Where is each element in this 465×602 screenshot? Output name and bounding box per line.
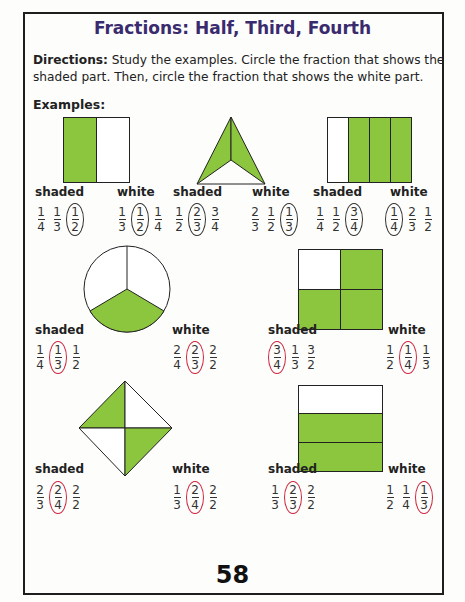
shaded-label: shaded: [173, 185, 222, 199]
denominator: 2: [267, 221, 275, 233]
denominator: 3: [271, 499, 279, 511]
denominator: 3: [36, 499, 44, 511]
numerator: 2: [36, 484, 44, 496]
numerator: 1: [37, 206, 45, 218]
fraction-choice[interactable]: 23: [248, 204, 262, 235]
denominator: 4: [211, 221, 219, 233]
fraction-choice[interactable]: 13: [49, 341, 67, 374]
shape-circle-thirds: [83, 245, 173, 335]
fraction-choice[interactable]: 12: [383, 482, 397, 513]
shape-rectangle-halves: [63, 117, 131, 183]
fraction-choice[interactable]: 23: [186, 341, 204, 374]
fraction-choice[interactable]: 23: [33, 482, 47, 513]
shaded-label: shaded: [35, 462, 84, 476]
denominator: 2: [424, 221, 432, 233]
fraction-choice[interactable]: 24: [186, 481, 204, 514]
fraction-choice[interactable]: 12: [69, 342, 83, 373]
fraction-choice[interactable]: 13: [280, 203, 298, 236]
fraction-choice[interactable]: 12: [264, 204, 278, 235]
shaded-label: shaded: [35, 323, 84, 337]
shaded-fraction-choices: 232422: [33, 481, 83, 514]
fraction-choice[interactable]: 13: [415, 481, 433, 514]
white-fraction-choices: 231213: [248, 203, 298, 236]
denominator: 3: [191, 359, 199, 371]
numerator: 3: [211, 206, 219, 218]
fraction-choice[interactable]: 34: [268, 341, 286, 374]
fraction-choice[interactable]: 13: [268, 482, 282, 513]
fraction-choice[interactable]: 12: [383, 342, 397, 373]
fraction-choice[interactable]: 13: [288, 342, 302, 373]
fraction-choice[interactable]: 13: [170, 482, 184, 513]
white-label: white: [172, 323, 210, 337]
fraction-choice[interactable]: 14: [399, 482, 413, 513]
fraction-choice[interactable]: 22: [206, 482, 220, 513]
white-label: white: [252, 185, 290, 199]
numerator: 3: [273, 344, 281, 356]
fraction-choice[interactable]: 34: [208, 204, 222, 235]
directions: Directions: Study the examples. Circle t…: [33, 52, 453, 86]
numerator: 1: [420, 484, 428, 496]
fraction-choice[interactable]: 22: [206, 342, 220, 373]
denominator: 2: [136, 221, 144, 233]
fraction-choice[interactable]: 32: [304, 342, 318, 373]
white-label: white: [388, 323, 426, 337]
fraction-choice[interactable]: 24: [49, 481, 67, 514]
numerator: 1: [402, 484, 410, 496]
fraction-choice[interactable]: 14: [34, 204, 48, 235]
denominator: 2: [307, 499, 315, 511]
numerator: 1: [285, 206, 293, 218]
fraction-choice[interactable]: 22: [304, 482, 318, 513]
shape-rectangle-thirds-horizontal: [298, 385, 384, 473]
numerator: 1: [291, 344, 299, 356]
numerator: 2: [251, 206, 259, 218]
white-fraction-choices: 142312: [385, 203, 435, 236]
page-number: 58: [0, 561, 465, 589]
numerator: 2: [209, 344, 217, 356]
fraction-choice[interactable]: 22: [69, 482, 83, 513]
numerator: 2: [193, 206, 201, 218]
fraction-choice[interactable]: 13: [50, 204, 64, 235]
shaded-fraction-choices: 122334: [172, 203, 222, 236]
fraction-choice[interactable]: 13: [115, 204, 129, 235]
white-label: white: [388, 462, 426, 476]
denominator: 3: [118, 221, 126, 233]
denominator: 2: [175, 221, 183, 233]
white-fraction-choices: 132422: [170, 481, 220, 514]
fraction-choice[interactable]: 23: [188, 203, 206, 236]
fraction-choice[interactable]: 14: [151, 204, 165, 235]
denominator: 4: [36, 359, 44, 371]
shaded-label: shaded: [35, 185, 84, 199]
denominator: 3: [251, 221, 259, 233]
fraction-choice[interactable]: 14: [33, 342, 47, 373]
shaded-fraction-choices: 141312: [34, 203, 84, 236]
denominator: 2: [386, 359, 394, 371]
white-fraction-choices: 121413: [383, 341, 433, 374]
fraction-choice[interactable]: 14: [313, 204, 327, 235]
fraction-choice[interactable]: 24: [170, 342, 184, 373]
numerator: 2: [54, 484, 62, 496]
numerator: 1: [271, 484, 279, 496]
fraction-choice[interactable]: 14: [399, 341, 417, 374]
numerator: 1: [173, 484, 181, 496]
fraction-choice[interactable]: 12: [66, 203, 84, 236]
shape-rectangle-fourths: [327, 117, 413, 183]
denominator: 4: [173, 359, 181, 371]
denominator: 2: [386, 499, 394, 511]
numerator: 1: [72, 344, 80, 356]
numerator: 1: [404, 344, 412, 356]
fraction-choice[interactable]: 12: [172, 204, 186, 235]
denominator: 2: [72, 359, 80, 371]
numerator: 2: [307, 484, 315, 496]
fraction-choice[interactable]: 34: [345, 203, 363, 236]
fraction-choice[interactable]: 13: [419, 342, 433, 373]
denominator: 3: [54, 359, 62, 371]
white-label: white: [172, 462, 210, 476]
fraction-choice[interactable]: 12: [421, 204, 435, 235]
fraction-choice[interactable]: 12: [131, 203, 149, 236]
fraction-choice[interactable]: 12: [329, 204, 343, 235]
fraction-choice[interactable]: 14: [385, 203, 403, 236]
fraction-choice[interactable]: 23: [284, 481, 302, 514]
fraction-choice[interactable]: 23: [405, 204, 419, 235]
shaded-fraction-choices: 141312: [33, 341, 83, 374]
numerator: 2: [289, 484, 297, 496]
